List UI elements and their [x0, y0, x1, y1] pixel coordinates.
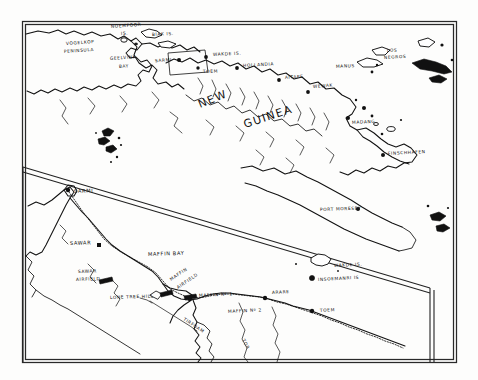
label-sawar: SAWAR — [70, 239, 92, 246]
dot-sarmi-inset — [66, 188, 70, 192]
dot-maffin1 — [188, 297, 192, 301]
label-sarmi-inset: SARMI — [74, 187, 93, 194]
label-manus: MANUS — [336, 63, 355, 69]
island-insoemanri — [309, 275, 314, 280]
label-sawar-airfield-2: AIRFIELD — [76, 276, 101, 282]
islet-a — [134, 43, 137, 45]
map-root: NOEMFOOR IS. BIAK IS. VOGELKOP PENINSULA… — [0, 0, 478, 380]
map-canvas: NOEMFOOR IS. BIAK IS. VOGELKOP PENINSULA… — [0, 0, 478, 380]
dot-aitape — [277, 78, 281, 82]
dot-finschhafen — [381, 153, 385, 157]
label-los: LOS — [387, 47, 398, 53]
island-long — [387, 127, 395, 132]
label-geelvink-2: BAY — [119, 63, 129, 69]
label-toem-inset: TOEM — [319, 307, 335, 313]
dot-toem-top — [196, 66, 199, 69]
dot-toem-inset — [310, 309, 314, 313]
dot-sawar — [97, 243, 101, 247]
dot-madang — [346, 116, 350, 120]
paper-background — [0, 0, 478, 380]
dot-hollandia — [235, 66, 239, 70]
label-noemfoor-is: IS. — [121, 31, 129, 36]
islet-karkar — [362, 106, 366, 110]
label-maffin-bay: MAFFIN BAY — [148, 250, 185, 257]
dot-wakde-top — [204, 55, 208, 59]
dot-wewak — [306, 90, 310, 94]
label-toem-top: TOEM — [202, 68, 218, 74]
islet-manus-dot — [371, 71, 374, 74]
dot-arare — [263, 296, 267, 300]
dot-sarmi-top — [177, 58, 181, 62]
label-arare: ARARE — [272, 289, 290, 295]
island-noemfoor — [121, 38, 127, 42]
label-sawar-airfield: SAWAR — [78, 268, 97, 274]
